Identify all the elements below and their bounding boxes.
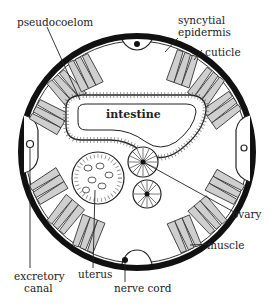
ovary-upper — [128, 147, 158, 177]
label-syncytial-epidermis-line2: epidermis — [178, 26, 231, 38]
label-syncytial-epidermis-line1: syncytial — [178, 14, 226, 26]
label-cuticle: cuticle — [205, 46, 241, 58]
dorsal-cord — [122, 40, 152, 50]
ovary-lower — [133, 180, 161, 208]
label-intestine: intestine — [106, 108, 161, 121]
label-nerve-cord: nerve cord — [114, 282, 172, 294]
label-ovary: ovary — [232, 208, 262, 220]
lateral-cord-left — [24, 115, 38, 173]
label-pseudocoelom: pseudocoelom — [17, 16, 93, 28]
uterus-structure — [72, 152, 124, 204]
label-excretory-canal-line2: canal — [24, 282, 53, 294]
lateral-cord-right — [236, 115, 250, 182]
nerve-cord-structure — [122, 250, 152, 264]
label-uterus: uterus — [78, 268, 112, 280]
label-muscle: muscle — [207, 239, 245, 251]
nematode-cross-section-diagram: pseudocoelom syncytial epidermis cuticle… — [0, 0, 275, 308]
label-excretory-canal-line1: excretory — [14, 270, 65, 282]
